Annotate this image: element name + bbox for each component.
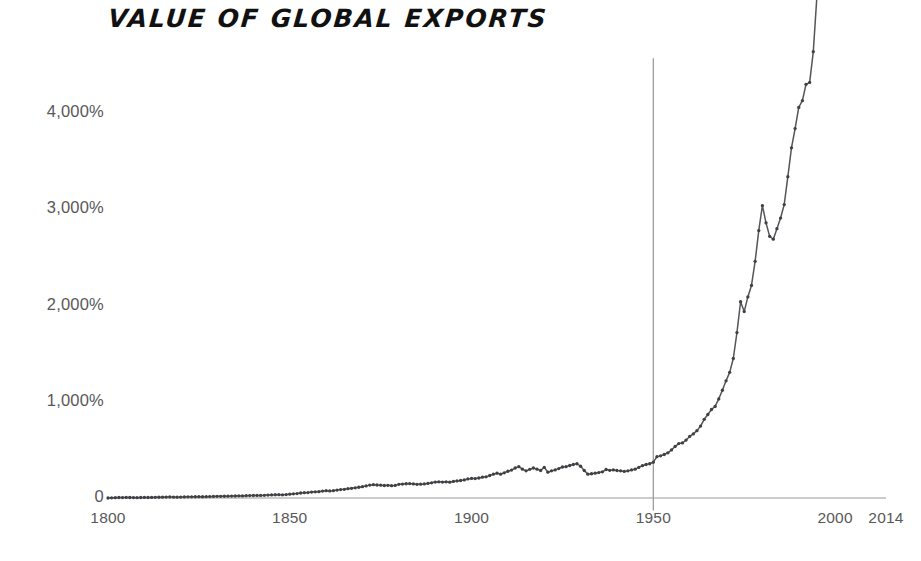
- data-point: [477, 476, 480, 479]
- data-point: [404, 482, 407, 485]
- data-point: [648, 462, 651, 465]
- data-point: [263, 494, 266, 497]
- data-point: [612, 468, 615, 471]
- exports-markers: [106, 0, 887, 500]
- data-point: [543, 466, 546, 469]
- data-point: [535, 467, 538, 470]
- data-point: [601, 470, 604, 473]
- data-point: [350, 487, 353, 490]
- data-point: [517, 465, 520, 468]
- data-point: [721, 389, 724, 392]
- data-point: [488, 474, 491, 477]
- data-point: [746, 295, 749, 298]
- data-point: [703, 418, 706, 421]
- data-point: [321, 489, 324, 492]
- data-point: [710, 408, 713, 411]
- data-point: [219, 495, 222, 498]
- data-point: [786, 175, 789, 178]
- data-point: [364, 484, 367, 487]
- data-point: [481, 476, 484, 479]
- data-point: [757, 229, 760, 232]
- data-point: [281, 493, 284, 496]
- data-point: [430, 481, 433, 484]
- data-point: [604, 468, 607, 471]
- data-point: [554, 468, 557, 471]
- data-point: [132, 496, 135, 499]
- data-point: [666, 451, 669, 454]
- data-point: [208, 495, 211, 498]
- data-point: [128, 496, 131, 499]
- data-point: [626, 469, 629, 472]
- data-point: [299, 491, 302, 494]
- data-point: [175, 495, 178, 498]
- data-point: [608, 469, 611, 472]
- data-point: [499, 472, 502, 475]
- data-point: [655, 455, 658, 458]
- data-point: [663, 453, 666, 456]
- data-point: [234, 494, 237, 497]
- data-point: [183, 495, 186, 498]
- data-point: [688, 435, 691, 438]
- data-point: [692, 432, 695, 435]
- data-point: [735, 331, 738, 334]
- data-point: [768, 235, 771, 238]
- data-point: [143, 496, 146, 499]
- data-point: [292, 492, 295, 495]
- data-point: [470, 477, 473, 480]
- data-point: [383, 484, 386, 487]
- data-point: [226, 495, 229, 498]
- data-point: [125, 496, 128, 499]
- data-point: [699, 424, 702, 427]
- data-point: [550, 469, 553, 472]
- data-point: [335, 488, 338, 491]
- data-point: [764, 221, 767, 224]
- data-point: [401, 482, 404, 485]
- data-point: [652, 461, 655, 464]
- data-point: [354, 486, 357, 489]
- data-point: [455, 479, 458, 482]
- data-point: [215, 495, 218, 498]
- data-point: [375, 483, 378, 486]
- data-point: [637, 466, 640, 469]
- data-point: [408, 482, 411, 485]
- data-point: [743, 310, 746, 313]
- data-point: [779, 216, 782, 219]
- data-point: [288, 493, 291, 496]
- data-point: [594, 472, 597, 475]
- data-point: [695, 429, 698, 432]
- line-chart-plot: [0, 0, 921, 561]
- data-point: [463, 478, 466, 481]
- data-point: [168, 495, 171, 498]
- data-point: [750, 284, 753, 287]
- data-point: [394, 484, 397, 487]
- data-point: [441, 480, 444, 483]
- data-point: [161, 495, 164, 498]
- data-point: [579, 465, 582, 468]
- data-point: [539, 469, 542, 472]
- data-point: [506, 470, 509, 473]
- data-point: [361, 485, 364, 488]
- data-point: [495, 472, 498, 475]
- data-point: [732, 357, 735, 360]
- data-point: [317, 490, 320, 493]
- data-point: [379, 484, 382, 487]
- data-point: [724, 379, 727, 382]
- data-point: [186, 495, 189, 498]
- data-point: [524, 469, 527, 472]
- data-point: [684, 438, 687, 441]
- data-point: [121, 496, 124, 499]
- data-point: [459, 479, 462, 482]
- data-point: [194, 495, 197, 498]
- data-point: [532, 466, 535, 469]
- data-point: [775, 227, 778, 230]
- data-point: [306, 491, 309, 494]
- data-point: [223, 495, 226, 498]
- data-point: [110, 496, 113, 499]
- data-point: [426, 482, 429, 485]
- data-point: [114, 496, 117, 499]
- data-point: [230, 494, 233, 497]
- data-point: [514, 466, 517, 469]
- data-point: [339, 488, 342, 491]
- data-point: [117, 496, 120, 499]
- data-point: [245, 494, 248, 497]
